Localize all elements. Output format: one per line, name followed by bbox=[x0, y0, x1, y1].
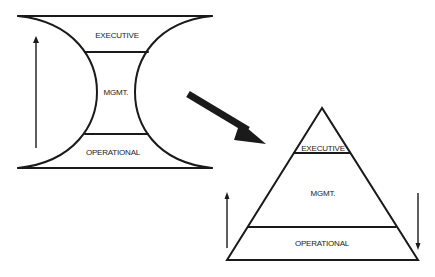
pyramid-down-arrow-icon bbox=[416, 193, 421, 250]
pyramid-executive-label: EXECUTIVE bbox=[301, 144, 345, 153]
pyramid-shape bbox=[227, 108, 418, 260]
hourglass-right-curve bbox=[135, 16, 212, 168]
hourglass-executive-label: EXECUTIVE bbox=[95, 31, 139, 40]
hourglass-operational-label: OPERATIONAL bbox=[86, 148, 141, 157]
pyramid-operational-label: OPERATIONAL bbox=[295, 239, 350, 248]
hourglass-left-curve bbox=[18, 16, 97, 168]
hourglass-up-arrow-icon bbox=[33, 36, 39, 148]
hourglass-mgmt-label: MGMT. bbox=[104, 88, 129, 97]
pyramid-up-arrow-icon bbox=[225, 192, 230, 248]
transition-arrow-icon bbox=[188, 94, 266, 144]
org-structure-diagram: EXECUTIVE MGMT. OPERATIONAL EXECUTIVE MG… bbox=[0, 0, 435, 277]
pyramid-mgmt-label: MGMT. bbox=[311, 189, 336, 198]
pyramid-outline bbox=[227, 108, 418, 260]
